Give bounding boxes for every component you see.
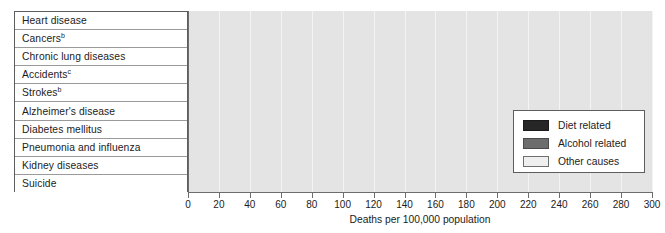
legend-label: Other causes xyxy=(558,156,619,167)
category-row: Suicide xyxy=(15,175,187,193)
footnote-marker: c xyxy=(68,68,72,75)
x-tick xyxy=(219,193,220,198)
category-label: Suicide xyxy=(22,178,56,189)
x-tick xyxy=(188,193,189,198)
x-tick-label: 300 xyxy=(644,199,661,210)
x-tick xyxy=(250,193,251,198)
category-label: Alzheimer's disease xyxy=(22,106,115,117)
category-label: Strokesb xyxy=(22,87,62,98)
footnote-marker: b xyxy=(61,32,65,39)
gridline xyxy=(374,11,375,192)
x-tick-label: 0 xyxy=(185,199,191,210)
x-tick-label: 220 xyxy=(520,199,537,210)
x-tick xyxy=(281,193,282,198)
x-tick xyxy=(652,193,653,198)
x-tick-label: 180 xyxy=(458,199,475,210)
category-row: Cancersb xyxy=(15,30,187,48)
x-tick-label: 140 xyxy=(396,199,413,210)
x-tick-label: 100 xyxy=(334,199,351,210)
gridline xyxy=(312,11,313,192)
category-label: Kidney diseases xyxy=(22,160,98,171)
category-row: Pneumonia and influenza xyxy=(15,139,187,157)
x-tick-label: 40 xyxy=(244,199,255,210)
footnote-marker: b xyxy=(58,86,62,93)
gridline xyxy=(652,11,653,192)
x-tick xyxy=(528,193,529,198)
gridline xyxy=(405,11,406,192)
x-tick xyxy=(312,193,313,198)
x-tick xyxy=(435,193,436,198)
category-label: Cancersb xyxy=(22,33,65,44)
x-tick xyxy=(497,193,498,198)
x-tick xyxy=(559,193,560,198)
x-tick-label: 160 xyxy=(427,199,444,210)
x-tick xyxy=(621,193,622,198)
category-label-table: Heart diseaseCancersbChronic lung diseas… xyxy=(14,11,188,192)
x-tick-label: 80 xyxy=(306,199,317,210)
x-tick-label: 200 xyxy=(489,199,506,210)
y-axis-line xyxy=(188,11,189,193)
category-row: Diabetes mellitus xyxy=(15,121,187,139)
category-label: Chronic lung diseases xyxy=(22,51,125,62)
gridline xyxy=(281,11,282,192)
category-label: Accidentsc xyxy=(22,69,71,80)
x-axis-title: Deaths per 100,000 population xyxy=(188,214,652,225)
category-row: Strokesb xyxy=(15,84,187,102)
gridline xyxy=(219,11,220,192)
x-tick xyxy=(405,193,406,198)
legend-item: Other causes xyxy=(523,153,644,170)
category-label: Diabetes mellitus xyxy=(22,124,102,135)
category-label: Heart disease xyxy=(22,15,87,26)
gridline xyxy=(343,11,344,192)
x-tick xyxy=(374,193,375,198)
x-tick xyxy=(590,193,591,198)
x-tick-label: 280 xyxy=(613,199,630,210)
category-row: Accidentsc xyxy=(15,66,187,84)
x-tick-label: 20 xyxy=(213,199,224,210)
x-axis-line xyxy=(188,192,653,193)
gridline xyxy=(250,11,251,192)
legend-swatch xyxy=(523,120,549,131)
x-tick-label: 120 xyxy=(365,199,382,210)
category-row: Heart disease xyxy=(15,12,187,30)
category-row: Chronic lung diseases xyxy=(15,48,187,66)
x-tick xyxy=(343,193,344,198)
gridline xyxy=(435,11,436,192)
category-row: Alzheimer's disease xyxy=(15,102,187,120)
chart-figure: Heart diseaseCancersbChronic lung diseas… xyxy=(0,0,665,233)
gridline xyxy=(497,11,498,192)
legend-item: Alcohol related xyxy=(523,135,644,152)
category-label: Pneumonia and influenza xyxy=(22,142,141,153)
legend-swatch xyxy=(523,156,549,167)
x-tick-label: 60 xyxy=(275,199,286,210)
x-tick xyxy=(466,193,467,198)
category-row: Kidney diseases xyxy=(15,157,187,175)
x-tick-label: 240 xyxy=(551,199,568,210)
legend-swatch xyxy=(523,138,549,149)
legend-label: Alcohol related xyxy=(558,138,626,149)
legend-label: Diet related xyxy=(558,120,611,131)
gridline xyxy=(466,11,467,192)
chart-legend: Diet relatedAlcohol relatedOther causes xyxy=(513,110,645,173)
x-tick-label: 260 xyxy=(582,199,599,210)
legend-item: Diet related xyxy=(523,117,644,134)
